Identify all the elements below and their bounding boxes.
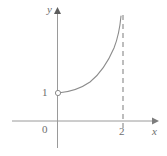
y-tick-label-1: 1 xyxy=(42,87,48,98)
y-axis-arrowhead xyxy=(54,7,61,14)
x-axis-arrowhead xyxy=(152,118,159,125)
function-curve xyxy=(58,16,121,93)
x-axis-label: x xyxy=(152,126,157,137)
plot-canvas xyxy=(0,0,167,156)
function-graph-figure: y x 0 1 2 xyxy=(0,0,167,156)
y-axis-label: y xyxy=(47,4,52,15)
x-tick-label-2: 2 xyxy=(119,126,125,137)
open-circle-endpoint xyxy=(55,90,60,95)
origin-label: 0 xyxy=(42,124,48,135)
